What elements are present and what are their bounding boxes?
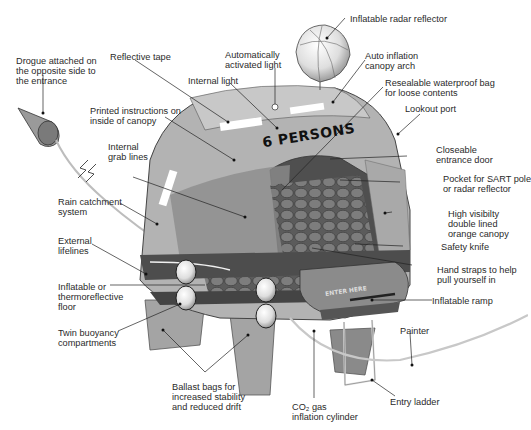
label-co2-cylinder: CO₂ gas inflation cylinder bbox=[292, 402, 358, 422]
label-floor: Inflatable or thermoreflective floor bbox=[58, 282, 123, 312]
label-painter: Painter bbox=[400, 326, 429, 336]
label-radar-reflector: Inflatable radar reflector bbox=[350, 14, 447, 24]
label-inflatable-ramp: Inflatable ramp bbox=[432, 296, 493, 306]
label-entrance-door: Closeable entrance door bbox=[436, 145, 493, 165]
label-rain-catchment: Rain catchment system bbox=[58, 197, 122, 217]
auto-light bbox=[272, 104, 278, 110]
label-sart-pocket: Pocket for SART pole or radar reflector bbox=[443, 174, 531, 194]
label-grab-lines: Internal grab lines bbox=[108, 142, 148, 162]
label-printed-instructions: Printed instructions on inside of canopy bbox=[90, 106, 181, 126]
label-lookout-port: Lookout port bbox=[405, 104, 456, 114]
label-waterproof-bag: Resealable waterproof bag for loose cont… bbox=[385, 78, 495, 98]
painter-line bbox=[290, 315, 528, 360]
label-internal-light: Internal light bbox=[188, 76, 238, 86]
label-reflective-tape: Reflective tape bbox=[110, 52, 171, 62]
label-canopy-arch: Auto inflation canopy arch bbox=[365, 51, 418, 71]
radar-reflector bbox=[296, 25, 350, 90]
label-auto-light: Automatically activated light bbox=[225, 50, 281, 70]
label-buoyancy: Twin buoyancy compartments bbox=[58, 328, 119, 348]
label-ballast-bags: Ballast bags for increased stability and… bbox=[172, 382, 245, 412]
label-hand-straps: Hand straps to help pull yourself in bbox=[437, 265, 517, 285]
label-orange-canopy: High visibilty double lined orange canop… bbox=[448, 209, 509, 239]
label-safety-knife: Safety knife bbox=[441, 242, 489, 252]
label-external-lifelines: External lifelines bbox=[58, 236, 92, 256]
label-drogue: Drogue attached on the opposite side to … bbox=[16, 56, 97, 86]
label-entry-ladder: Entry ladder bbox=[390, 397, 440, 407]
